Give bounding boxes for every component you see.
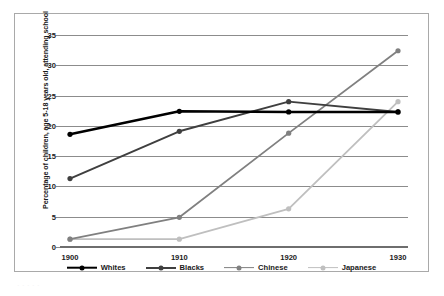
plot-area: 05101520253035 1900191019201930 xyxy=(60,35,408,247)
y-tick-label-35: 35 xyxy=(48,31,56,40)
series-line-whites xyxy=(70,111,398,134)
y-tick-label-5: 5 xyxy=(52,212,56,221)
data-point-blacks-1900 xyxy=(67,176,72,181)
data-point-blacks-1920 xyxy=(286,99,291,104)
y-tick-label-25: 25 xyxy=(48,91,56,100)
legend-label-whites: Whites xyxy=(101,263,126,272)
y-tick-label-20: 20 xyxy=(48,121,56,130)
caption-fragment: · · · · · xyxy=(17,281,40,290)
data-point-whites-1910 xyxy=(177,109,182,114)
data-point-whites-1920 xyxy=(286,109,291,114)
legend-item-japanese[interactable]: Japanese xyxy=(308,263,377,272)
y-axis-title: Percentage of children, age 5-18 years o… xyxy=(42,19,50,209)
legend-item-chinese[interactable]: Chinese xyxy=(224,263,288,272)
data-point-blacks-1910 xyxy=(177,129,182,134)
legend-marker xyxy=(320,265,325,270)
y-tick-mark-0 xyxy=(56,247,60,248)
legend-swatch-blacks-icon xyxy=(146,263,176,272)
data-point-chinese-1900 xyxy=(67,237,72,242)
y-tick-label-30: 30 xyxy=(48,61,56,70)
legend-swatch-japanese-icon xyxy=(308,263,338,272)
chart-legend: WhitesBlacksChineseJapanese xyxy=(15,263,428,272)
data-point-chinese-1930 xyxy=(395,48,400,53)
x-tick-label-1920: 1920 xyxy=(280,253,297,262)
data-point-chinese-1920 xyxy=(286,131,291,136)
legend-swatch-whites-icon xyxy=(67,263,97,272)
legend-label-chinese: Chinese xyxy=(258,263,288,272)
data-point-japanese-1920 xyxy=(286,206,291,211)
legend-item-blacks[interactable]: Blacks xyxy=(146,263,205,272)
data-point-whites-1900 xyxy=(67,132,72,137)
legend-swatch-chinese-icon xyxy=(224,263,254,272)
data-point-whites-1930 xyxy=(395,109,400,114)
series-lines xyxy=(60,35,408,247)
chart-frame: Percentage of children, age 5-18 years o… xyxy=(14,13,429,272)
y-tick-label-10: 10 xyxy=(48,182,56,191)
series-line-japanese xyxy=(70,102,398,239)
legend-label-blacks: Blacks xyxy=(180,263,205,272)
gridline-0 xyxy=(60,247,408,248)
series-chinese xyxy=(67,48,400,242)
series-japanese xyxy=(67,99,400,242)
x-tick-label-1930: 1930 xyxy=(390,253,407,262)
series-line-chinese xyxy=(70,51,398,239)
y-tick-label-0: 0 xyxy=(52,243,56,252)
series-whites xyxy=(67,109,400,137)
legend-marker xyxy=(237,265,242,270)
y-tick-label-15: 15 xyxy=(48,152,56,161)
legend-marker xyxy=(79,265,84,270)
legend-item-whites[interactable]: Whites xyxy=(67,263,126,272)
data-point-chinese-1910 xyxy=(177,215,182,220)
chart-page: Percentage of children, age 5-18 years o… xyxy=(0,0,444,296)
data-point-japanese-1910 xyxy=(177,237,182,242)
x-tick-label-1910: 1910 xyxy=(171,253,188,262)
x-tick-label-1900: 1900 xyxy=(62,253,79,262)
data-point-japanese-1930 xyxy=(395,99,400,104)
legend-marker xyxy=(158,265,163,270)
legend-label-japanese: Japanese xyxy=(342,263,377,272)
